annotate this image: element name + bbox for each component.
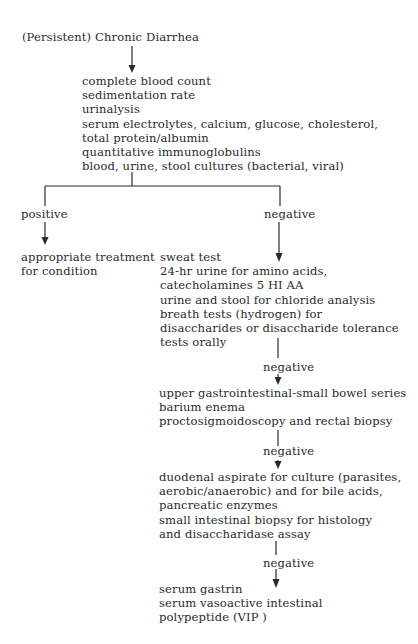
test-item: total protein/albumin [82,131,378,145]
test-item: 24-hr urine for amino acids, [160,264,399,278]
test-item: disaccharides or disaccharide tolerance [160,321,399,335]
test-item: and disaccharidase assay [159,527,401,541]
step2-tests-block: sweat test 24-hr urine for amino acids, … [160,250,399,349]
test-item: urinalysis [82,102,378,116]
negative-label: negative [264,207,315,221]
test-item: serum gastrin [159,582,323,596]
test-item: barium enema [159,400,406,414]
step3-result-label: negative [263,444,314,458]
test-item: serum vasoactive intestinal [159,596,323,610]
positive-outcome-block: appropriate treatment for condition [21,250,155,278]
test-item: sweat test [160,250,399,264]
step3-tests-block: upper gastrointestinal-small bowel serie… [159,386,406,429]
outcome-line: appropriate treatment [21,250,155,264]
diagram-title: (Persistent) Chronic Diarrhea [22,30,199,44]
step4-tests-block: duodenal aspirate for culture (parasites… [159,470,401,541]
test-item: breath tests (hydrogen) for [160,307,399,321]
arrowhead-icon [275,377,282,385]
test-item: upper gastrointestinal-small bowel serie… [159,386,406,400]
test-item: sedimentation rate [82,88,378,102]
test-item: urine and stool for chloride analysis [160,293,399,307]
positive-label: positive [21,207,68,221]
test-item: tests orally [160,335,399,349]
test-item: proctosigmoidoscopy and rectal biopsy [159,414,406,428]
arrowhead-icon [275,461,282,469]
initial-tests-block: complete blood count sedimentation rate … [82,74,378,173]
test-item: blood, urine, stool cultures (bacterial,… [82,159,378,173]
arrowhead-icon [42,237,49,245]
test-item: small intestinal biopsy for histology [159,513,401,527]
step2-result-label: negative [263,360,314,374]
arrowhead-icon [129,65,136,73]
test-item: serum electrolytes, calcium, glucose, ch… [82,117,378,131]
test-item: polypeptide (VIP ) [159,610,323,624]
step5-tests-block: serum gastrin serum vasoactive intestina… [159,582,323,625]
test-item: complete blood count [82,74,378,88]
test-item: pancreatic enzymes [159,498,401,512]
test-item: quantitative immunoglobulins [82,145,378,159]
test-item: duodenal aspirate for culture (parasites… [159,470,401,484]
test-item: aerobic/anaerobic) and for bile acids, [159,484,401,498]
test-item: catecholamines 5 HI AA [160,278,399,292]
step4-result-label: negative [263,556,314,570]
outcome-line: for condition [21,264,155,278]
